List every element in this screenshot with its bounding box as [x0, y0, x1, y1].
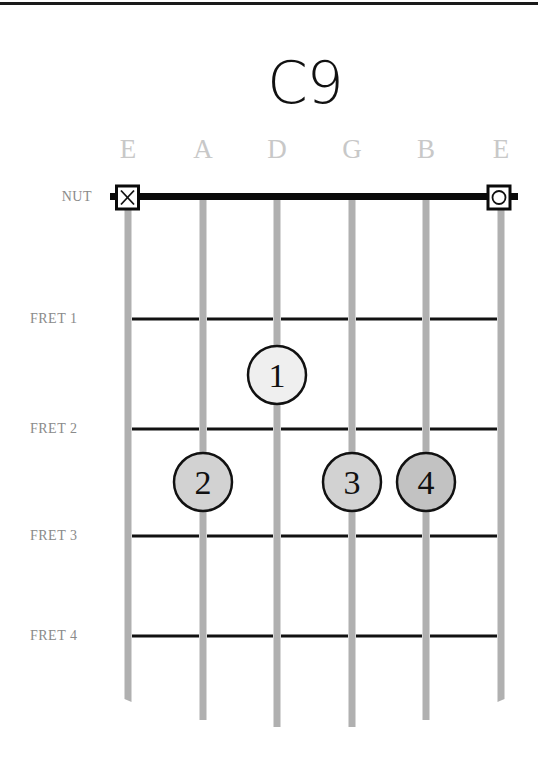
fret-line-4 — [132, 635, 497, 638]
string-high-e — [498, 205, 505, 702]
finger-number: 4 — [418, 464, 435, 501]
finger-number: 3 — [344, 464, 361, 501]
open-string-icon — [488, 186, 510, 209]
nut-bar — [110, 193, 518, 200]
finger-number: 2 — [195, 464, 212, 501]
fret-line-3 — [132, 535, 497, 538]
string-low-e — [125, 205, 132, 702]
finger-dot-1: 1 — [248, 346, 306, 404]
muted-string-icon — [117, 186, 139, 209]
fret-line-1 — [132, 318, 497, 321]
finger-number: 1 — [269, 357, 286, 394]
string-d — [274, 200, 281, 727]
fret-line-2 — [132, 428, 497, 431]
finger-dot-3: 3 — [323, 453, 381, 511]
finger-dot-2: 2 — [174, 453, 232, 511]
fretboard: 1 2 3 4 — [0, 0, 538, 767]
finger-dot-4: 4 — [397, 453, 455, 511]
